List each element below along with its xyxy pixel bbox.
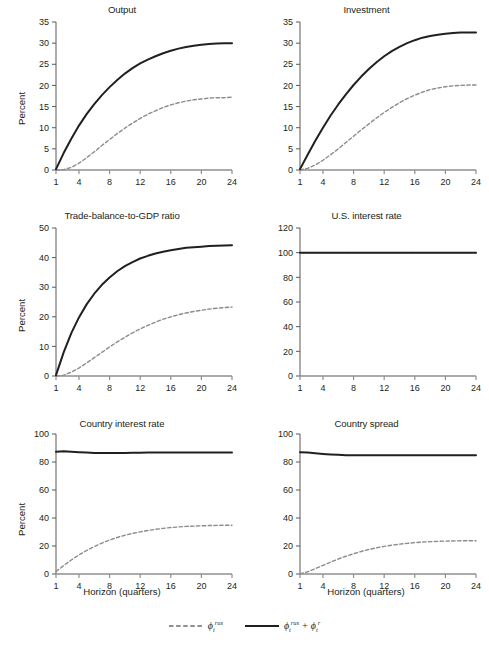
figure-panel-grid: Output Percent 0510152025303514812162024…	[0, 0, 489, 655]
svg-text:20: 20	[196, 383, 206, 393]
svg-text:50: 50	[39, 223, 49, 233]
svg-text:4: 4	[76, 177, 81, 187]
svg-text:16: 16	[410, 177, 420, 187]
svg-text:5: 5	[288, 144, 293, 154]
svg-text:8: 8	[351, 177, 356, 187]
svg-text:35: 35	[39, 17, 49, 27]
svg-text:15: 15	[39, 102, 49, 112]
legend-sub: t	[213, 626, 215, 633]
svg-text:0: 0	[288, 371, 293, 381]
chart-grid: Output Percent 0510152025303514812162024…	[0, 0, 489, 612]
plot-svg: 02040608010014812162024	[0, 414, 244, 612]
svg-text:40: 40	[39, 253, 49, 263]
svg-text:16: 16	[166, 177, 176, 187]
svg-text:80: 80	[283, 273, 293, 283]
svg-text:20: 20	[39, 541, 49, 551]
legend-item-shock-rus-plus-r: ϕtrus + ϕtr	[245, 619, 320, 633]
svg-text:0: 0	[44, 569, 49, 579]
legend: ϕtrus ϕtrus + ϕtr	[0, 612, 489, 640]
svg-text:24: 24	[227, 177, 237, 187]
svg-text:24: 24	[471, 177, 481, 187]
svg-text:16: 16	[410, 383, 420, 393]
svg-text:0: 0	[288, 165, 293, 175]
x-axis-label: Horizon (quarters)	[254, 586, 478, 597]
svg-text:10: 10	[39, 123, 49, 133]
svg-text:25: 25	[39, 59, 49, 69]
legend-label-shock-rus-plus-r: ϕtrus + ϕtr	[284, 619, 320, 633]
x-axis-label: Horizon (quarters)	[10, 586, 234, 597]
svg-text:20: 20	[283, 347, 293, 357]
svg-text:30: 30	[39, 38, 49, 48]
chart-panel-trade-balance-to-gdp-ratio: Trade-balance-to-GDP ratio Percent 01020…	[0, 206, 244, 414]
legend-sub-2: t	[316, 626, 318, 633]
svg-text:25: 25	[283, 59, 293, 69]
plot-svg: 0510152025303514812162024	[0, 0, 244, 206]
svg-text:4: 4	[320, 177, 325, 187]
svg-text:10: 10	[283, 123, 293, 133]
svg-text:80: 80	[39, 457, 49, 467]
svg-text:16: 16	[166, 383, 176, 393]
svg-text:0: 0	[288, 569, 293, 579]
svg-text:30: 30	[39, 282, 49, 292]
svg-text:1: 1	[297, 177, 302, 187]
chart-panel-country-interest-rate: Country interest rate Percent 0204060801…	[0, 414, 244, 612]
svg-text:12: 12	[135, 177, 145, 187]
legend-sup-2: r	[318, 619, 321, 626]
svg-text:1: 1	[53, 177, 58, 187]
legend-item-shock-rus: ϕtrus	[169, 619, 223, 633]
svg-text:0: 0	[44, 371, 49, 381]
svg-text:4: 4	[320, 383, 325, 393]
svg-text:20: 20	[440, 383, 450, 393]
svg-text:0: 0	[44, 165, 49, 175]
svg-text:20: 20	[283, 81, 293, 91]
svg-text:8: 8	[107, 383, 112, 393]
svg-text:24: 24	[471, 383, 481, 393]
svg-text:24: 24	[227, 383, 237, 393]
svg-text:60: 60	[283, 297, 293, 307]
plot-svg: 02040608010012014812162024	[244, 206, 489, 414]
svg-text:80: 80	[283, 457, 293, 467]
legend-swatch-solid-line	[245, 621, 279, 631]
legend-swatch-dashed-line	[169, 621, 203, 631]
svg-text:1: 1	[53, 383, 58, 393]
plot-svg: 0510152025303514812162024	[244, 0, 489, 206]
legend-label-shock-rus: ϕtrus	[208, 619, 223, 633]
svg-text:35: 35	[283, 17, 293, 27]
svg-text:12: 12	[379, 383, 389, 393]
svg-text:60: 60	[39, 485, 49, 495]
svg-text:60: 60	[283, 485, 293, 495]
svg-text:15: 15	[283, 102, 293, 112]
plot-svg: 0102030405014812162024	[0, 206, 244, 414]
svg-text:20: 20	[440, 177, 450, 187]
svg-text:40: 40	[283, 513, 293, 523]
legend-sup: rus	[215, 619, 223, 626]
svg-text:5: 5	[44, 144, 49, 154]
svg-text:20: 20	[39, 312, 49, 322]
chart-panel-country-spread: Country spread 02040608010014812162024 H…	[244, 414, 489, 612]
svg-text:12: 12	[379, 177, 389, 187]
svg-text:8: 8	[351, 383, 356, 393]
svg-text:100: 100	[278, 248, 293, 258]
svg-text:40: 40	[39, 513, 49, 523]
plot-svg: 02040608010014812162024	[244, 414, 489, 612]
svg-text:40: 40	[283, 322, 293, 332]
svg-text:1: 1	[297, 383, 302, 393]
svg-text:30: 30	[283, 38, 293, 48]
svg-text:100: 100	[34, 429, 49, 439]
svg-text:120: 120	[278, 223, 293, 233]
svg-text:10: 10	[39, 342, 49, 352]
svg-text:12: 12	[135, 383, 145, 393]
legend-sub: t	[289, 626, 291, 633]
svg-text:4: 4	[76, 383, 81, 393]
svg-text:100: 100	[278, 429, 293, 439]
legend-sup: rus	[291, 619, 299, 626]
chart-panel-investment: Investment 0510152025303514812162024	[244, 0, 489, 206]
svg-text:20: 20	[196, 177, 206, 187]
svg-text:20: 20	[39, 81, 49, 91]
svg-text:8: 8	[107, 177, 112, 187]
chart-panel-us-interest-rate: U.S. interest rate 020406080100120148121…	[244, 206, 489, 414]
svg-text:20: 20	[283, 541, 293, 551]
chart-panel-output: Output Percent 0510152025303514812162024	[0, 0, 244, 206]
